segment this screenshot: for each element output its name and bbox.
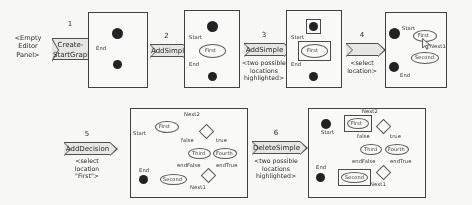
panel-5-label-next1: Next1 xyxy=(190,185,206,190)
panel-3-label-end: End xyxy=(291,62,301,67)
panel-6-label-end: End xyxy=(316,165,326,170)
mouse-cursor-icon xyxy=(422,38,431,50)
step-6-note-line-3: highlighted> xyxy=(248,172,304,180)
empty-panel-line-3: Panel> xyxy=(6,51,50,59)
step-3-note-line-2: locations xyxy=(240,67,288,75)
step-3-note-line-1: <two possible xyxy=(240,59,288,67)
panel-4-initial-node[interactable] xyxy=(389,28,400,39)
step-3-label: AddSimple xyxy=(245,44,284,57)
step-3-note: <two possible locations highlighted> xyxy=(240,59,288,82)
step-1-label-line-2: StartGraph xyxy=(53,50,88,60)
panel-1-final-node[interactable] xyxy=(113,60,122,69)
panel-3-final-node[interactable] xyxy=(309,72,318,81)
step-6-note-line-2: locations xyxy=(248,165,304,173)
empty-editor-panel-label: <Empty Editor Panel> xyxy=(6,34,50,59)
panel-6-label-second: Second xyxy=(345,175,364,180)
panel-2-final-node[interactable] xyxy=(208,72,217,81)
step-5-arrow[interactable]: AddDecision xyxy=(64,142,110,155)
step-2-number: 2 xyxy=(150,32,183,40)
step-1-label-line-1: Create- xyxy=(53,40,88,50)
step-5-note-line-3: "First"> xyxy=(60,172,114,180)
step-6-arrowhead xyxy=(300,141,308,155)
step-3-note-line-3: highlighted> xyxy=(240,74,288,82)
step-2-arrow[interactable]: AddSimple xyxy=(150,44,183,57)
panel-6-label-endtrue: endTrue xyxy=(390,159,412,164)
empty-panel-line-1: <Empty xyxy=(6,34,50,42)
panel-5-label-fourth: Fourth xyxy=(216,151,233,156)
step-6-number: 6 xyxy=(252,129,300,137)
panel-5-final-node[interactable] xyxy=(139,175,148,184)
panel-5-label-second: Second xyxy=(163,177,182,182)
panel-6-label-start: Start xyxy=(321,130,334,135)
step-3-number: 3 xyxy=(244,31,284,39)
step-5-arrowhead xyxy=(110,142,118,156)
panel-6-label-fourth: Fourth xyxy=(388,147,405,152)
panel-6-label-first: First xyxy=(351,121,362,126)
step-4-arrowtail xyxy=(346,43,353,57)
figure-canvas: <Empty Editor Panel> 1 Create- StartGrap… xyxy=(0,0,472,205)
step-4-note: <select location> xyxy=(342,59,382,74)
panel-3-highlight-start[interactable] xyxy=(306,19,321,34)
panel-6-label-false: false xyxy=(357,134,370,139)
step-6-note-line-1: <two possible xyxy=(248,157,304,165)
panel-5-label-first: First xyxy=(159,124,170,129)
step-4-note-line-2: location> xyxy=(342,67,382,75)
panel-2-label-start: Start xyxy=(189,35,202,40)
panel-6-label-next1: Next1 xyxy=(370,182,386,187)
panel-5-label-third: Third xyxy=(192,151,205,156)
panel-6-final-node[interactable] xyxy=(316,173,325,182)
panel-4-label-start: Start xyxy=(402,26,415,31)
empty-panel-line-2: Editor xyxy=(6,42,50,50)
step-5-note-line-2: location xyxy=(60,165,114,173)
step-4-arrow[interactable] xyxy=(346,43,378,56)
step-3-arrow[interactable]: AddSimple xyxy=(244,43,284,56)
step-5-number: 5 xyxy=(64,130,110,138)
step-6-note: <two possible locations highlighted> xyxy=(248,157,304,180)
step-5-note: <select location "First"> xyxy=(60,157,114,180)
step-2-label: AddSimple xyxy=(151,45,183,58)
panel-1-initial-node[interactable] xyxy=(112,28,123,39)
step-6-label: DeleteSimple xyxy=(253,142,300,155)
step-1-number: 1 xyxy=(52,20,88,28)
panel-6-label-next2: Next2 xyxy=(362,109,378,114)
panel-4-label-second: Second xyxy=(415,55,434,60)
panel-5-label-false: false xyxy=(181,138,194,143)
panel-5-label-end: End xyxy=(139,168,149,173)
panel-3-label-first: First xyxy=(307,48,318,53)
panel-5-label-true: true xyxy=(216,138,227,143)
step-5-note-line-1: <select xyxy=(60,157,114,165)
panel-4-label-next1: Next1 xyxy=(430,44,446,49)
step-5-label: AddDecision xyxy=(65,143,110,156)
panel-6-initial-node[interactable] xyxy=(321,119,331,129)
panel-5-label-next2: Next2 xyxy=(184,112,200,117)
panel-2-label-end: End xyxy=(189,62,199,67)
panel-6-label-third: Third xyxy=(364,147,377,152)
panel-5-label-endfalse: endFalse xyxy=(177,163,201,168)
panel-4-final-node[interactable] xyxy=(389,62,399,72)
panel-2-label-first: First xyxy=(205,48,216,53)
panel-3-label-start: Start xyxy=(291,35,304,40)
step-4-number: 4 xyxy=(346,31,378,39)
panel-6-label-true: true xyxy=(390,134,401,139)
step-1-arrow[interactable]: Create- StartGraph xyxy=(52,38,88,60)
panel-2-initial-node[interactable] xyxy=(207,21,218,32)
panel-6-label-endfalse: endFalse xyxy=(352,159,376,164)
editor-panel-4[interactable] xyxy=(385,12,447,88)
step-4-note-line-1: <select xyxy=(342,59,382,67)
step-6-arrow[interactable]: DeleteSimple xyxy=(252,141,300,154)
panel-1-label-end: End xyxy=(96,46,106,51)
panel-4-label-end: End xyxy=(400,73,410,78)
panel-5-label-start: Start xyxy=(133,131,146,136)
panel-5-label-endtrue: endTrue xyxy=(216,163,238,168)
